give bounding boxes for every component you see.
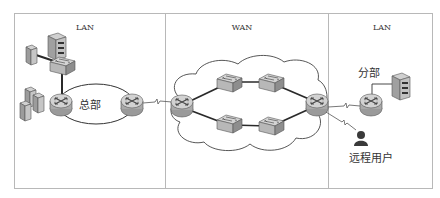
headquarters-network: 总部 [20, 33, 143, 124]
panel-title-lan-right: LAN [373, 23, 391, 32]
server-icon [48, 33, 66, 60]
panel-title-lan-left: LAN [76, 23, 94, 32]
network-diagram: LAN WAN LAN 总部 [0, 0, 440, 198]
remote-user-icon [354, 131, 368, 146]
serial-link-hq-wan [143, 99, 172, 104]
label-headquarters: 总部 [79, 98, 101, 112]
wan-network [171, 55, 328, 150]
label-remote-user: 远程用户 [349, 151, 393, 165]
wan-cloud [171, 55, 327, 150]
label-branch: 分部 [358, 66, 380, 80]
pc-cluster-icon [20, 87, 44, 121]
branch-network: 分部 远程用户 [349, 66, 410, 165]
router-icon [306, 94, 328, 116]
panel-title-wan: WAN [232, 23, 253, 32]
switch-icon [50, 57, 75, 75]
router-icon [50, 94, 72, 116]
router-icon [171, 95, 193, 117]
serial-link-wan-remote-user [326, 112, 356, 130]
router-icon [360, 94, 382, 116]
router-icon [121, 94, 143, 116]
pc-icon [26, 45, 37, 65]
server-icon [392, 73, 410, 100]
serial-link-wan-branch [328, 103, 360, 108]
